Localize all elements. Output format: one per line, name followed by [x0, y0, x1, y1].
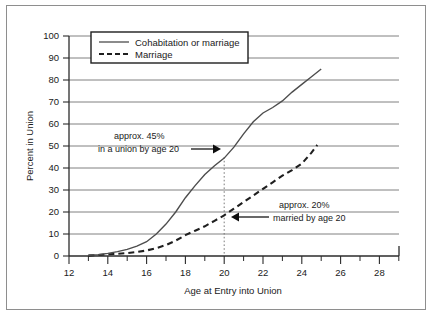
x-tick-label: 18	[180, 267, 191, 278]
chart-canvas: 100 90 80 70 60 50 40 30 20 10 0	[7, 6, 427, 311]
y-axis-title: Percent in Union	[24, 111, 35, 181]
x-tick-label: 28	[374, 267, 385, 278]
y-tick-label: 80	[48, 74, 59, 85]
figure-frame: 100 90 80 70 60 50 40 30 20 10 0	[6, 5, 426, 310]
y-tick-label: 10	[48, 228, 59, 239]
annotation-union-line1: approx. 45%	[114, 131, 165, 141]
y-tick-label: 40	[48, 162, 59, 173]
x-tick-label: 14	[103, 267, 114, 278]
x-axis-ticks	[69, 256, 399, 264]
series-group	[88, 69, 321, 256]
y-tick-label: 50	[48, 140, 59, 151]
x-tick-label: 20	[219, 267, 230, 278]
legend-label-cohabitation: Cohabitation or marriage	[135, 37, 240, 48]
x-tick-label: 26	[335, 267, 346, 278]
x-tick-label: 12	[64, 267, 75, 278]
x-tick-label: 16	[141, 267, 152, 278]
y-axis-tick-labels: 100 90 80 70 60 50 40 30 20 10 0	[43, 30, 59, 261]
x-axis-tick-labels: 12 14 16 18 20 22 24 26 28	[64, 267, 385, 278]
y-tick-label: 60	[48, 118, 59, 129]
x-tick-label: 24	[297, 267, 308, 278]
x-tick-label: 22	[258, 267, 269, 278]
y-tick-label: 70	[48, 96, 59, 107]
y-tick-label: 20	[48, 206, 59, 217]
annotation-married-line2: married by age 20	[273, 213, 346, 223]
legend: Cohabitation or marriage Marriage	[91, 32, 248, 63]
annotation-union-line2: in a union by age 20	[98, 144, 179, 154]
annotation-union-by-20: approx. 45% in a union by age 20	[98, 131, 221, 154]
y-axis-ticks	[63, 36, 69, 256]
annotation-married-arrow-head	[231, 213, 239, 222]
y-tick-label: 0	[54, 250, 59, 261]
legend-label-marriage: Marriage	[135, 49, 173, 60]
y-tick-label: 100	[43, 30, 59, 41]
y-tick-label: 30	[48, 184, 59, 195]
line-chart: 100 90 80 70 60 50 40 30 20 10 0	[7, 6, 427, 311]
x-axis-title: Age at Entry into Union	[184, 285, 282, 296]
y-tick-label: 90	[48, 52, 59, 63]
annotation-married-line1: approx. 20%	[279, 200, 330, 210]
